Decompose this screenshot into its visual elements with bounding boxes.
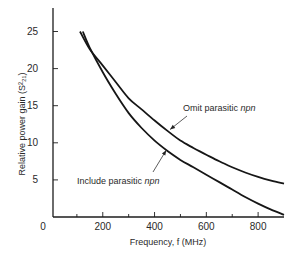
x-tick-label-0: 0 — [40, 221, 46, 232]
annotations: Omit parasitic npnInclude parasitic npn — [77, 103, 256, 186]
x-tick-label-800: 800 — [250, 221, 267, 232]
y-tick-label-15: 15 — [27, 100, 39, 111]
y-tick-label-25: 25 — [27, 26, 39, 37]
chart: 510152025 0200400600800 Omit parasitic n… — [0, 0, 296, 259]
curves — [80, 32, 284, 215]
annotation-omit-parasitic-npn: Omit parasitic npn — [183, 103, 256, 113]
y-tick-label-5: 5 — [32, 174, 38, 185]
annotation-include-parasitic-npn: Include parasitic npn — [77, 176, 160, 186]
arrowhead-include-parasitic-npn — [162, 150, 166, 155]
x-axis-title: Frequency, f (MHz) — [130, 237, 206, 247]
y-tick-label-20: 20 — [27, 63, 39, 74]
y-axis-title: Relative power gain (S²₂₁) — [17, 72, 27, 175]
x-tick-label-200: 200 — [94, 221, 111, 232]
y-tick-label-10: 10 — [27, 137, 39, 148]
x-tick-label-600: 600 — [198, 221, 215, 232]
curve-include-parasitic-npn — [83, 32, 284, 215]
x-tick-label-400: 400 — [146, 221, 163, 232]
x-ticks: 0200400600800 — [40, 212, 267, 232]
